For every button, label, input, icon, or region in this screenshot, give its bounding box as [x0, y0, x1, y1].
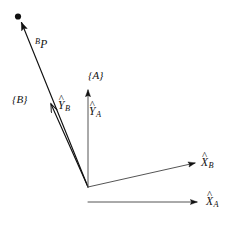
- coordinate-frame-diagram: BP {B} ^YB {A} ^YA ^XB ^XA: [0, 0, 240, 232]
- label-frame-b: {B}: [12, 94, 28, 105]
- diagram-canvas: [0, 0, 240, 232]
- label-frame-a: {A}: [88, 70, 104, 81]
- label-y-a: ^YA: [89, 106, 101, 119]
- label-y-b-subscript: B: [65, 104, 70, 113]
- label-y-a-symbol: Y: [89, 105, 95, 117]
- label-x-b: ^XB: [201, 157, 214, 170]
- label-x-a: ^XA: [206, 196, 219, 209]
- label-x-a-symbol-group: ^X: [206, 196, 213, 208]
- label-y-b: ^YB: [58, 100, 70, 113]
- label-y-a-subscript: A: [96, 110, 101, 119]
- point-p-marker: [15, 13, 21, 19]
- axis-y-b-line: [51, 104, 88, 187]
- label-x-b-symbol: X: [201, 156, 208, 168]
- label-point-p: BP: [35, 38, 47, 50]
- label-point-p-symbol: P: [40, 38, 47, 50]
- vector-bp-line: [22, 23, 89, 188]
- label-x-a-symbol: X: [206, 195, 213, 207]
- label-y-a-symbol-group: ^Y: [89, 106, 95, 118]
- label-x-b-symbol-group: ^X: [201, 157, 208, 169]
- label-x-a-subscript: A: [214, 200, 219, 209]
- label-y-b-symbol-group: ^Y: [58, 100, 64, 112]
- axis-x-b-line: [88, 163, 195, 187]
- label-y-b-symbol: Y: [58, 99, 64, 111]
- label-x-b-subscript: B: [209, 161, 214, 170]
